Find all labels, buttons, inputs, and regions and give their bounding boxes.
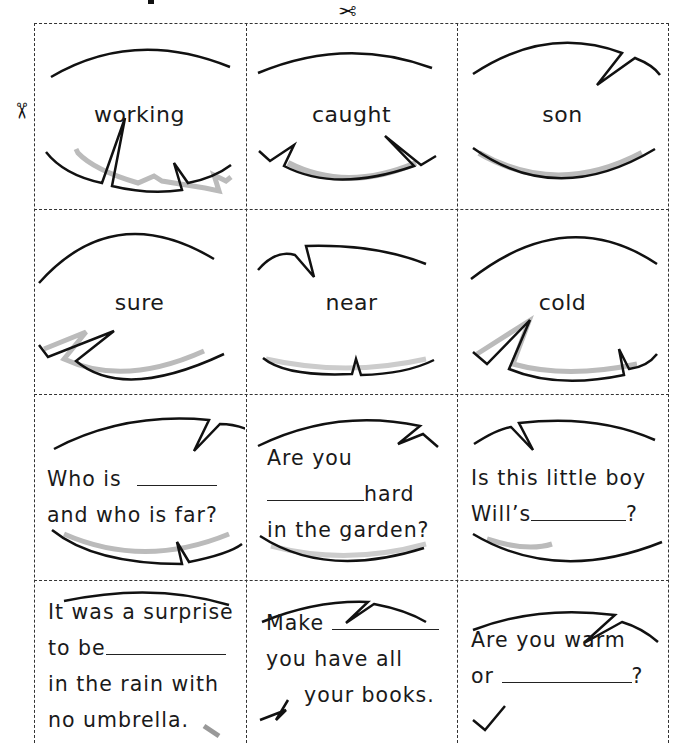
word-card[interactable]: sure (34, 209, 245, 394)
sentence-text: Are you warm or ? (471, 622, 643, 694)
card-grid: working caught son sure (34, 23, 669, 743)
sentence-card[interactable]: Are you warm or ? (457, 580, 668, 747)
sentence-text: Make you have all your books. (266, 605, 439, 713)
word-card[interactable]: working (34, 23, 245, 208)
word-card[interactable]: son (457, 23, 668, 208)
sentence-card[interactable]: Are you hard in the garden? (246, 394, 457, 579)
word-label: working (34, 102, 245, 127)
word-label: sure (34, 290, 245, 315)
word-card[interactable]: caught (246, 23, 457, 208)
sentence-card[interactable]: It was a surprise to be in the rain with… (34, 580, 245, 747)
word-label: cold (457, 290, 668, 315)
word-card[interactable]: cold (457, 209, 668, 394)
sentence-card[interactable]: Make you have all your books. (246, 580, 457, 747)
sentence-text: Is this little boy Will’s? (471, 460, 646, 532)
answer-blank[interactable] (267, 499, 364, 501)
sentence-text: Are you hard in the garden? (267, 440, 430, 548)
sentence-text: It was a surprise to be in the rain with… (48, 594, 234, 738)
answer-blank[interactable] (332, 628, 439, 630)
answer-blank[interactable] (531, 519, 626, 521)
word-card[interactable]: near (246, 209, 457, 394)
answer-blank[interactable] (106, 653, 226, 655)
cut-line (668, 23, 669, 743)
title-fragment (148, 0, 154, 4)
word-label: caught (246, 102, 457, 127)
word-label: son (457, 102, 668, 127)
scissors-icon: ✂ (10, 102, 32, 120)
sentence-card[interactable]: Is this little boy Will’s? (457, 394, 668, 579)
scissors-icon: ✂ (338, 1, 356, 23)
sentence-text: Who is and who is far? (47, 461, 218, 533)
sentence-card[interactable]: Who is and who is far? (34, 394, 245, 579)
answer-blank[interactable] (137, 484, 217, 486)
word-label: near (246, 290, 457, 315)
answer-blank[interactable] (502, 681, 632, 683)
